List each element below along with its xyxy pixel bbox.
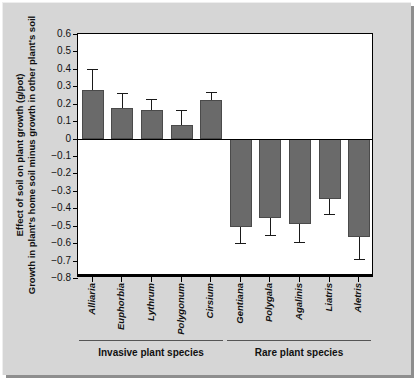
y-axis-tick-label: 0.4	[57, 64, 71, 74]
group-band: Rare plant species	[227, 340, 371, 358]
error-bar-cap	[146, 99, 157, 100]
bar	[141, 110, 163, 139]
y-axis-tick-label: 0.1	[57, 116, 71, 126]
error-bar-stem	[122, 93, 123, 108]
x-axis-label: Aletris	[353, 283, 363, 313]
error-bar-cap	[294, 242, 305, 243]
bar-group	[315, 34, 345, 276]
y-axis-tick-label: 0.6	[57, 29, 71, 39]
bar-group	[344, 34, 374, 276]
error-bar-cap	[354, 259, 365, 260]
group-rule	[79, 340, 223, 341]
y-axis-tick-label: 0	[65, 134, 71, 144]
error-bar-cap	[117, 93, 128, 94]
bar	[319, 139, 341, 199]
error-bar-cap	[235, 243, 246, 244]
group-band: Invasive plant species	[79, 340, 223, 358]
y-axis-tick-label: −0.8	[51, 273, 71, 283]
y-axis-title-line-1: Effect of soil on plant growth (g/pot)	[14, 73, 26, 236]
error-bar-stem	[240, 227, 241, 243]
error-bar-cap	[87, 69, 98, 70]
x-axis-label: Euphorbia	[116, 283, 126, 330]
plot-area: 0.60.50.40.30.20.10−0.1−0.2−0.3−0.4−0.5−…	[77, 33, 373, 277]
bar	[111, 108, 133, 139]
error-bar-cap	[324, 214, 335, 215]
x-axis-tick	[151, 277, 152, 282]
error-bar-stem	[359, 237, 360, 259]
bar	[200, 100, 222, 138]
error-bar-cap	[176, 110, 187, 111]
y-axis-title: Effect of soil on plant growth (g/pot) G…	[12, 33, 40, 277]
x-axis-label: Polygonum	[176, 283, 186, 335]
y-axis-tick-label: −0.3	[51, 186, 71, 196]
bar	[348, 139, 370, 237]
y-axis-tick-label: −0.7	[51, 256, 71, 266]
x-axis-label: Cirsium	[205, 283, 215, 318]
bar-group	[256, 34, 286, 276]
bar	[82, 90, 104, 139]
group-label: Invasive plant species	[79, 347, 223, 358]
y-axis-tick-label: −0.6	[51, 238, 71, 248]
x-axis-tick	[121, 277, 122, 282]
error-bar-cap	[265, 235, 276, 236]
figure-container: Effect of soil on plant growth (g/pot) G…	[0, 0, 416, 379]
x-axis-tick	[358, 277, 359, 282]
x-axis-tick	[210, 277, 211, 282]
x-axis-tick	[92, 277, 93, 282]
error-bar-stem	[270, 218, 271, 235]
y-axis-title-line-2: Growth in plant's home soil minus growth…	[26, 16, 38, 294]
error-bar-stem	[92, 69, 93, 90]
x-axis-label: Polygala	[264, 283, 274, 322]
error-bar-stem	[329, 199, 330, 214]
x-axis-label: Gentiana	[235, 283, 245, 324]
bar	[171, 125, 193, 139]
error-bar-cap	[206, 92, 217, 93]
group-bands: Invasive plant speciesRare plant species	[77, 340, 373, 368]
x-axis-label: Agalinis	[294, 283, 304, 320]
error-bar-stem	[151, 99, 152, 109]
error-bar-stem	[211, 92, 212, 101]
x-axis-tick	[181, 277, 182, 282]
x-axis-label: Liatris	[324, 283, 334, 312]
x-axis-tick	[269, 277, 270, 282]
bar	[230, 139, 252, 228]
y-axis-tick-label: −0.1	[51, 151, 71, 161]
x-axis-tick	[299, 277, 300, 282]
bar-group	[196, 34, 226, 276]
x-axis-tick	[240, 277, 241, 282]
bar-group	[285, 34, 315, 276]
error-bar-stem	[299, 224, 300, 242]
bar	[259, 139, 281, 218]
x-axis-tick	[329, 277, 330, 282]
error-bar-stem	[181, 110, 182, 125]
x-axis-labels: AlliariaEuphorbiaLythrumPolygonumCirsium…	[77, 283, 373, 335]
group-rule	[227, 340, 371, 341]
bar-group	[108, 34, 138, 276]
bars-layer	[78, 34, 372, 276]
bar	[289, 139, 311, 224]
bar-group	[78, 34, 108, 276]
bar-group	[137, 34, 167, 276]
zero-reference-line	[78, 139, 372, 140]
bar-group	[226, 34, 256, 276]
y-axis-tick-label: 0.3	[57, 81, 71, 91]
y-axis-tick-label: 0.2	[57, 99, 71, 109]
y-axis-tick-label: −0.2	[51, 168, 71, 178]
bar-group	[167, 34, 197, 276]
x-axis-label: Alliaria	[87, 283, 97, 315]
y-axis-tick-label: −0.5	[51, 221, 71, 231]
y-axis-tick-label: −0.4	[51, 203, 71, 213]
group-label: Rare plant species	[227, 347, 371, 358]
x-axis-label: Lythrum	[146, 283, 156, 321]
y-axis-tick-label: 0.5	[57, 46, 71, 56]
